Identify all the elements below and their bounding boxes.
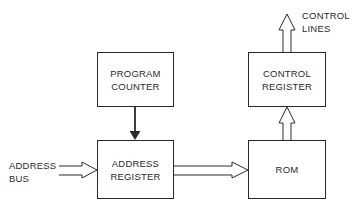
control-lines-arrow (279, 14, 295, 52)
control-lines-label: CONTROL LINES (302, 9, 350, 35)
address-bus-label-line1: ADDRESS (9, 159, 56, 172)
address-register-block: ADDRESS REGISTER (97, 140, 174, 199)
control-register-label-line2: REGISTER (262, 80, 312, 93)
control-register-label-line1: CONTROL (263, 67, 311, 80)
address-register-label-line1: ADDRESS (112, 157, 159, 170)
control-lines-label-line2: LINES (302, 22, 350, 35)
program-counter-block: PROGRAM COUNTER (97, 52, 174, 107)
rom-label: ROM (276, 163, 299, 176)
address-bus-arrow (59, 162, 97, 178)
ar-to-rom-arrow (173, 162, 248, 178)
block-diagram: PROGRAM COUNTER ADDRESS REGISTER CONTROL… (0, 0, 357, 212)
address-bus-label: ADDRESS BUS (9, 159, 56, 185)
rom-to-cr-arrow (279, 107, 295, 140)
program-counter-label-line1: PROGRAM (110, 67, 161, 80)
rom-block: ROM (248, 140, 326, 199)
control-lines-label-line1: CONTROL (302, 9, 350, 22)
address-bus-label-line2: BUS (9, 172, 56, 185)
address-register-label-line2: REGISTER (110, 170, 160, 183)
control-register-block: CONTROL REGISTER (248, 52, 326, 107)
pc-to-ar-arrow (130, 106, 141, 140)
program-counter-label-line2: COUNTER (111, 80, 159, 93)
